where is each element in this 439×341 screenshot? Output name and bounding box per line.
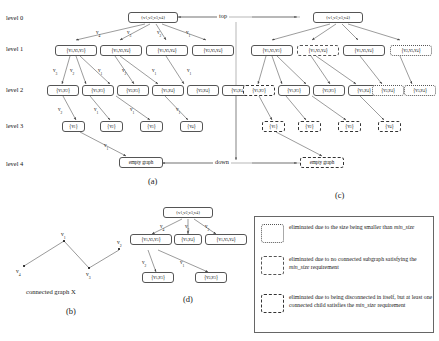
panel-a-node-l2-4: {v2,v4} bbox=[187, 85, 219, 96]
panel-a-node-l1-3: {v2,v3,v4} bbox=[192, 45, 234, 56]
panel-a-node-l2-3: {v1,v4} bbox=[152, 85, 184, 96]
panel-a-node-l1-1: {v1,v2,v4} bbox=[100, 45, 142, 56]
panel-a-node-l1-2: {v1,v3,v4} bbox=[146, 45, 188, 56]
panel-a-node-l2-0: {v1,v2} bbox=[47, 85, 79, 96]
legend-item-1: eliminated due to no connected subgraph … bbox=[261, 255, 433, 275]
graph-x-label-v3: v3 bbox=[86, 271, 91, 279]
panel-a-node-l3-2: {v3} bbox=[140, 121, 163, 132]
panel-a-edge-label-7: v2 bbox=[122, 67, 126, 75]
panel-label-c: (c) bbox=[335, 190, 344, 200]
panel-c-node-l1-3: {v2,v3,v4} bbox=[390, 45, 432, 56]
panel-c-node-l1-1: {v1,v2,v4} bbox=[297, 45, 339, 56]
figure-root: level 0 level 1 level 2 level 3 level 4 … bbox=[0, 0, 439, 341]
graph-x-label-v4: v4 bbox=[16, 268, 21, 276]
panel-a-node-l3-1: {v2} bbox=[100, 121, 123, 132]
level-label-3: level 3 bbox=[6, 122, 23, 129]
panel-d-node-l2-0: {v1,v3} bbox=[142, 272, 174, 283]
panel-d-node-l1-0: {v1,v2,v3} bbox=[130, 234, 172, 245]
panel-c-node-l1-0: {v1,v2,v3} bbox=[251, 45, 293, 56]
legend-text-2: eliminated due to being disconnected in … bbox=[289, 293, 433, 309]
panel-a-edge-label-10: v2 bbox=[58, 106, 62, 114]
panel-d-node-l1-2: {v1,v3,v4} bbox=[205, 234, 247, 245]
panel-c-node-l3-1: {v2} bbox=[298, 121, 321, 132]
panel-d-edge-label-3: v2 bbox=[142, 259, 146, 267]
panel-d-edge-label-1: v3 bbox=[185, 223, 189, 231]
legend-swatch-dashdot bbox=[261, 294, 284, 313]
top-flow-label: top bbox=[217, 12, 229, 19]
panel-d-node-l1-1: {v1,v4} bbox=[174, 234, 202, 245]
panel-a-edge-label-1: v3 bbox=[127, 29, 131, 37]
panel-a-edge-label-12: v1 bbox=[130, 106, 134, 114]
panel-c-node-l2-2: {v2,v3} bbox=[313, 85, 345, 96]
level-label-2: level 2 bbox=[6, 86, 23, 93]
panel-a-edge-label-13: v1 bbox=[176, 106, 180, 114]
panel-a-edge-label-3: v1 bbox=[186, 29, 190, 37]
panel-a-edge-label-2: v2 bbox=[157, 29, 161, 37]
down-flow-label: down bbox=[213, 158, 231, 165]
panel-a-node-l1-0: {v1,v2,v3} bbox=[55, 45, 97, 56]
panel-a-edge-label-14: v1 bbox=[104, 142, 108, 150]
panel-label-a: (a) bbox=[148, 176, 157, 186]
level-label-1: level 1 bbox=[6, 45, 23, 52]
panel-a-edge-label-8: v1 bbox=[152, 67, 156, 75]
panel-a-edge-label-11: v1 bbox=[94, 106, 98, 114]
panel-a-edge-label-4: v3 bbox=[53, 67, 57, 75]
panel-c-node-l0-0: {v1,v2,v3,v4} bbox=[313, 12, 363, 23]
legend-item-0: eliminated due to the size being smaller… bbox=[261, 223, 433, 243]
panel-d-node-l0-0: {v1,v2,v3,v4} bbox=[163, 207, 213, 218]
legend-box: eliminated due to the size being smaller… bbox=[254, 216, 434, 333]
panel-a-node-l3-0: {v1} bbox=[62, 121, 85, 132]
panel-c-node-l2-0: {v1,v2} bbox=[243, 85, 275, 96]
panel-c-node-l3-3: {v4} bbox=[378, 121, 401, 132]
legend-text-0: eliminated due to the size being smaller… bbox=[289, 223, 433, 231]
panel-a-edge-label-0: v4 bbox=[96, 29, 100, 37]
panel-a-edge-label-6: v1 bbox=[98, 67, 102, 75]
panel-a-node-l3-3: {v4} bbox=[180, 121, 203, 132]
graph-x-label-v1: v1 bbox=[61, 231, 66, 239]
panel-a-node-l2-1: {v1,v3} bbox=[82, 85, 114, 96]
panel-c-node-l1-2: {v1,v3,v4} bbox=[343, 45, 385, 56]
graph-x-caption: connected graph X bbox=[26, 288, 76, 295]
panel-a-node-l4-0: empty graph bbox=[119, 157, 163, 168]
legend-swatch-dotted bbox=[261, 224, 284, 243]
panel-c-node-l2-5: {v3,v4} bbox=[404, 85, 436, 96]
graph-x-label-v2: v2 bbox=[117, 239, 122, 247]
panel-c-node-l2-1: {v1,v3} bbox=[278, 85, 310, 96]
legend-text-1: eliminated due to no connected subgraph … bbox=[289, 255, 433, 271]
legend-swatch-dashed bbox=[261, 256, 284, 275]
panel-d-edge-label-2: v2 bbox=[205, 223, 209, 231]
panel-c-node-l2-4: {v2,v4} bbox=[372, 85, 404, 96]
panel-a-node-l0-0: {v1,v2,v3,v4} bbox=[128, 12, 178, 23]
panel-label-d: (d) bbox=[183, 294, 193, 304]
panel-d-edge-label-0: v4 bbox=[160, 223, 164, 231]
panel-c-node-l3-2: {v3} bbox=[338, 121, 361, 132]
panel-c-node-l4-0: empty graph bbox=[300, 157, 344, 168]
panel-label-b: (b) bbox=[66, 306, 76, 316]
level-label-4: level 4 bbox=[6, 160, 23, 167]
panel-d-edge-label-4: v1 bbox=[180, 259, 184, 267]
panel-a-node-l2-2: {v2,v3} bbox=[117, 85, 149, 96]
panel-a-edge-label-5: v2 bbox=[70, 67, 74, 75]
level-label-0: level 0 bbox=[6, 14, 23, 21]
legend-item-2: eliminated due to being disconnected in … bbox=[261, 293, 433, 313]
panel-d-node-l2-1: {v2,v3} bbox=[195, 272, 227, 283]
panel-c-node-l3-0: {v1} bbox=[262, 121, 285, 132]
graph-x-edges bbox=[24, 241, 119, 268]
panel-a-edge-label-9: v1 bbox=[187, 67, 191, 75]
